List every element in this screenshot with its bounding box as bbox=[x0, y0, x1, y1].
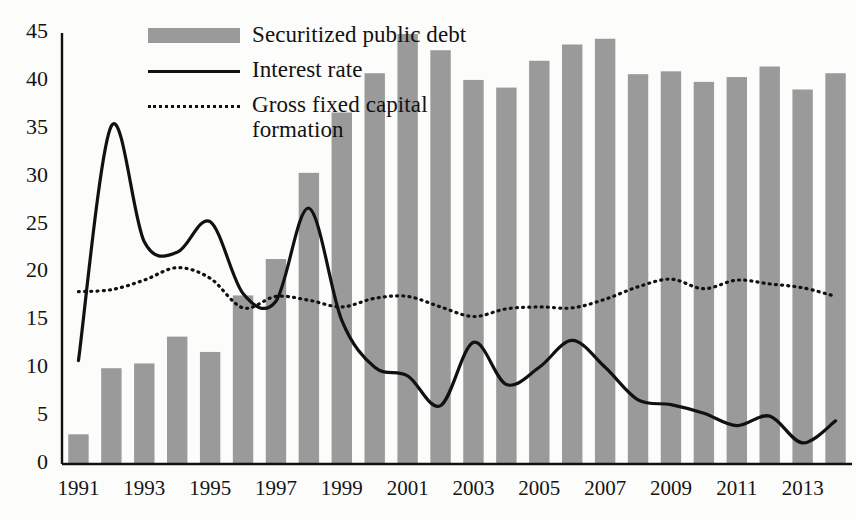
legend-label-line-2: formation bbox=[252, 117, 344, 142]
bar bbox=[562, 44, 582, 464]
bar bbox=[792, 90, 812, 464]
legend-item-securitized-public-debt: Securitized public debt bbox=[148, 22, 466, 48]
chart-container: 051015202530354045 199119931995199719992… bbox=[0, 0, 856, 520]
y-axis-tick-label: 20 bbox=[8, 257, 48, 283]
legend-label-line-1: Gross fixed capital bbox=[252, 92, 428, 117]
chart-legend: Securitized public debt Interest rate Gr… bbox=[148, 22, 466, 151]
bar bbox=[825, 73, 845, 464]
bar bbox=[595, 39, 615, 464]
legend-label-interest-rate: Interest rate bbox=[252, 57, 362, 83]
bar bbox=[266, 259, 286, 464]
bar bbox=[529, 61, 549, 464]
y-axis-tick-label: 5 bbox=[8, 401, 48, 427]
bar bbox=[332, 113, 352, 465]
y-axis-tick-label: 10 bbox=[8, 353, 48, 379]
bar bbox=[101, 368, 121, 464]
legend-item-interest-rate: Interest rate bbox=[148, 57, 466, 83]
legend-solid-line-icon bbox=[148, 57, 240, 83]
line-series-gross-fixed-capital-formation bbox=[78, 268, 835, 317]
bar bbox=[496, 88, 516, 464]
y-axis-tick-label: 45 bbox=[8, 18, 48, 44]
bar bbox=[200, 352, 220, 464]
legend-swatch-icon bbox=[148, 22, 240, 48]
y-axis-tick-label: 25 bbox=[8, 210, 48, 236]
y-axis-tick-label: 35 bbox=[8, 114, 48, 140]
bar bbox=[68, 434, 88, 464]
legend-dotted-line-icon bbox=[148, 92, 240, 118]
bar bbox=[760, 67, 780, 464]
bar bbox=[134, 363, 154, 464]
y-axis-tick-label: 30 bbox=[8, 162, 48, 188]
y-axis-tick-label: 40 bbox=[8, 66, 48, 92]
bar bbox=[233, 295, 253, 464]
bar bbox=[727, 77, 747, 464]
y-axis-tick-label: 15 bbox=[8, 305, 48, 331]
y-axis-tick-label: 0 bbox=[8, 449, 48, 475]
bar bbox=[167, 337, 187, 464]
x-axis-tick-label: 2013 bbox=[763, 476, 843, 501]
legend-item-gross-fixed-capital-formation: Gross fixed capitalformation bbox=[148, 92, 466, 142]
bar bbox=[694, 82, 714, 464]
legend-label-securitized-public-debt: Securitized public debt bbox=[252, 22, 466, 48]
legend-label-gross-fixed-capital-formation: Gross fixed capitalformation bbox=[252, 92, 428, 142]
bar bbox=[628, 74, 648, 464]
